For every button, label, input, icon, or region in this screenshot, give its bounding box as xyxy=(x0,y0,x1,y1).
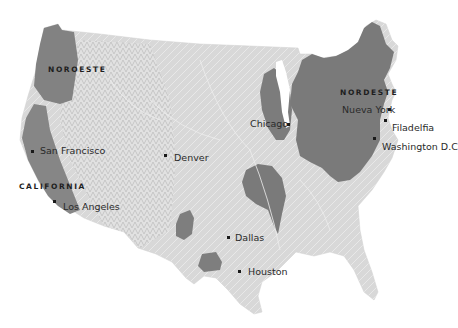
city-label-washington: Washington D.C xyxy=(382,141,458,152)
region-noroeste xyxy=(34,24,78,104)
city-label-filadelfia: Filadelfia xyxy=(392,122,434,133)
city-marker-washington xyxy=(373,137,376,140)
region-label-noroeste: NOROESTE xyxy=(48,65,106,74)
city-label-dallas: Dallas xyxy=(235,232,264,243)
city-label-chicago: Chicago xyxy=(250,118,288,129)
city-marker-los-angeles xyxy=(53,200,56,203)
region-label-california: CALIFORNIA xyxy=(19,182,86,191)
city-marker-denver xyxy=(164,154,167,157)
city-marker-filadelfia xyxy=(384,119,387,122)
city-marker-dallas xyxy=(227,236,230,239)
city-marker-houston xyxy=(238,270,241,273)
city-label-denver: Denver xyxy=(174,152,209,163)
city-marker-san-francisco xyxy=(31,150,34,153)
city-label-houston: Houston xyxy=(248,266,287,277)
city-label-nueva-york: Nueva York xyxy=(342,104,395,115)
city-label-san-francisco: San Francisco xyxy=(40,145,105,156)
region-label-nordeste: NORDESTE xyxy=(340,88,398,97)
city-label-los-angeles: Los Angeles xyxy=(63,201,120,212)
